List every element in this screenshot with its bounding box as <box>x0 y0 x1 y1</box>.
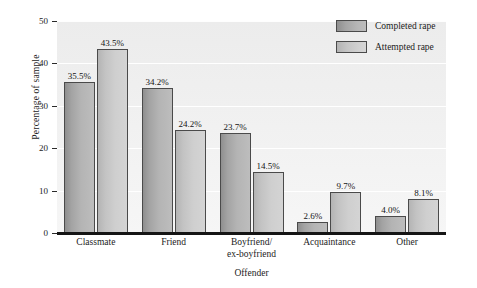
bar-value-label: 34.2% <box>146 77 169 87</box>
bar-completed: 4.0% <box>375 216 406 233</box>
bar-value-label: 2.6% <box>303 211 322 221</box>
bar-attempted: 24.2% <box>175 130 206 233</box>
bar-value-label: 8.1% <box>414 188 433 198</box>
bar-completed: 34.2% <box>142 88 173 233</box>
x-tick-label-line: Other <box>396 237 418 249</box>
bar-value-label: 43.5% <box>101 38 124 48</box>
x-tick-label-line: Classmate <box>76 237 115 249</box>
legend-item-attempted-rape: Attempted rape <box>336 38 468 55</box>
y-tick-label: 40 <box>26 58 48 68</box>
bar-value-label: 24.2% <box>179 119 202 129</box>
bar-attempted: 9.7% <box>330 192 361 233</box>
x-tick-label-line: Boyfriend/ <box>227 237 276 249</box>
bar-value-label: 35.5% <box>68 71 91 81</box>
y-tick-label: 20 <box>26 143 48 153</box>
legend-item-completed-rape: Completed rape <box>336 17 468 34</box>
x-tick-label: Boyfriend/ex-boyfriend <box>227 237 276 260</box>
bar-attempted: 43.5% <box>97 49 128 233</box>
legend-label-attempted-rape: Attempted rape <box>375 42 434 52</box>
x-tick-label-line: Acquaintance <box>303 237 355 249</box>
y-tick-label: 30 <box>26 101 48 111</box>
legend-label-completed-rape: Completed rape <box>375 21 435 31</box>
y-tick-label: 50 <box>26 16 48 26</box>
x-tick-label: Classmate <box>76 237 115 249</box>
bar-value-label: 9.7% <box>336 181 355 191</box>
legend-swatch-attempted-rape <box>336 41 367 53</box>
y-tick-label: 10 <box>26 186 48 196</box>
y-tick-label: 0 <box>26 228 48 238</box>
bar-chart-figure: Percentage of sample 01020304050 35.5%43… <box>0 0 477 288</box>
x-tick-label: Acquaintance <box>303 237 355 249</box>
chart-legend: Completed rape Attempted rape <box>336 17 468 59</box>
x-tick-label: Other <box>396 237 418 249</box>
x-axis-title: Offender <box>57 268 446 278</box>
x-tick-label-line: Friend <box>161 237 186 249</box>
y-axis-tick-labels: 01020304050 <box>22 0 48 288</box>
bar-completed: 35.5% <box>64 82 95 233</box>
x-tick-label: Friend <box>161 237 186 249</box>
bar-attempted: 8.1% <box>408 199 439 233</box>
bar-completed: 23.7% <box>220 133 251 233</box>
x-axis-tick-labels: ClassmateFriendBoyfriend/ex-boyfriendAcq… <box>57 237 446 271</box>
bar-value-label: 14.5% <box>256 161 279 171</box>
bar-value-label: 4.0% <box>381 205 400 215</box>
x-tick-label-line: ex-boyfriend <box>227 249 276 261</box>
legend-swatch-completed-rape <box>336 20 367 32</box>
bar-value-label: 23.7% <box>223 122 246 132</box>
bar-attempted: 14.5% <box>253 172 284 233</box>
x-axis-line <box>57 232 446 235</box>
